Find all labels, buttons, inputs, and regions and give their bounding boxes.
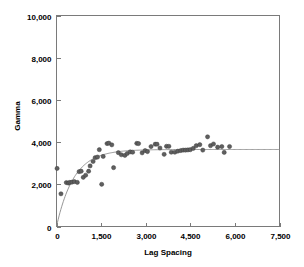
x-tick-label: 1,500 (91, 232, 112, 241)
data-point (110, 143, 114, 147)
data-point (75, 180, 79, 184)
data-point (205, 135, 209, 139)
x-tick-label: 4,500 (180, 232, 201, 241)
variogram-chart: 02,0004,0006,0008,00010,000 01,5003,0004… (0, 0, 304, 267)
y-tick-label: 4,000 (31, 139, 52, 148)
data-point (167, 144, 171, 148)
x-axis-title: Lag Spacing (144, 248, 192, 257)
y-tick-label: 0 (47, 224, 52, 233)
data-point (155, 142, 159, 146)
data-point (87, 169, 91, 173)
y-tick-label: 2,000 (31, 181, 52, 190)
x-tick-label: 0 (55, 232, 60, 241)
data-point (201, 148, 205, 152)
data-point (131, 150, 135, 154)
data-point (222, 150, 226, 154)
data-point (198, 143, 202, 147)
x-tick-label: 7,500 (270, 232, 291, 241)
data-point (91, 159, 95, 163)
data-point (88, 164, 92, 168)
data-point (79, 169, 83, 173)
data-point (158, 146, 162, 150)
data-point (136, 141, 140, 145)
data-point (211, 142, 215, 146)
data-point (216, 145, 220, 149)
data-point (227, 144, 231, 148)
data-point (59, 192, 63, 196)
chart-screenshot: 02,0004,0006,0008,00010,000 01,5003,0004… (0, 0, 304, 267)
data-point (84, 173, 88, 177)
data-point (100, 182, 104, 186)
data-point (101, 154, 105, 158)
data-point (149, 144, 153, 148)
data-point (97, 148, 101, 152)
data-point (111, 166, 115, 170)
data-point (220, 144, 224, 148)
data-point (55, 166, 59, 170)
data-point (162, 152, 166, 156)
x-tick-label: 6,000 (225, 232, 246, 241)
y-tick-label: 8,000 (31, 55, 52, 64)
x-tick-label: 3,000 (136, 232, 157, 241)
y-tick-label: 10,000 (27, 13, 52, 22)
data-point (95, 155, 99, 159)
y-axis-title: Gamma (13, 101, 22, 131)
data-point (145, 149, 149, 153)
y-tick-label: 6,000 (31, 97, 52, 106)
